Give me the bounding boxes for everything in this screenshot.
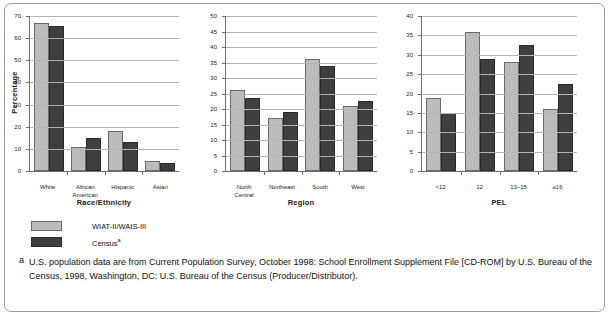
y-tick: 30 — [222, 78, 226, 79]
chart-panel-pel: 0510152025303540 <121213–15≥16 PEL — [399, 8, 599, 213]
y-tick: 20 — [222, 109, 226, 110]
y-tick: 30 — [26, 105, 30, 106]
bar — [230, 90, 245, 171]
gridline — [30, 60, 179, 61]
y-tick-label: 30 — [406, 52, 413, 58]
x-axis-title: Race/Ethnicity — [29, 198, 179, 207]
x-tick — [67, 171, 68, 175]
x-tick-labels: <121213–15≥16 — [421, 184, 577, 192]
gridline — [226, 32, 377, 33]
y-tick: 5 — [418, 152, 422, 153]
bar — [305, 59, 320, 171]
x-tick — [461, 171, 462, 175]
y-tick-label: 20 — [14, 124, 21, 130]
bar — [86, 138, 101, 171]
y-tick: 60 — [26, 38, 30, 39]
charts-strip: Percentage 010203040506070 WhiteAfrican … — [5, 8, 606, 213]
bar-groups — [30, 16, 179, 171]
y-tick-label: 50 — [14, 57, 21, 63]
gridline — [30, 16, 179, 17]
y-tick-label: 35 — [210, 60, 217, 66]
x-tick-label: <12 — [421, 184, 460, 192]
y-tick: 25 — [222, 94, 226, 95]
y-tick: 70 — [26, 16, 30, 17]
y-tick-label: 30 — [210, 75, 217, 81]
footnote-marker: a — [19, 254, 24, 268]
x-tick — [142, 171, 143, 175]
gridline — [30, 105, 179, 106]
y-tick: 10 — [418, 132, 422, 133]
gridline — [422, 55, 577, 56]
bar — [504, 62, 519, 171]
bar — [358, 101, 373, 171]
bar-group — [105, 16, 142, 171]
y-tick: 50 — [222, 16, 226, 17]
y-tick-label: 70 — [14, 13, 21, 19]
y-tick-label: 35 — [406, 32, 413, 38]
x-tick — [500, 171, 501, 175]
gridline — [422, 35, 577, 36]
x-tick-label: Northeast — [263, 184, 301, 199]
bar — [543, 109, 558, 171]
gridline — [30, 127, 179, 128]
y-tick-label: 60 — [14, 35, 21, 41]
gridline — [226, 140, 377, 141]
bar — [268, 118, 283, 171]
bar-group — [67, 16, 104, 171]
x-tick-label: ≥16 — [538, 184, 577, 192]
bar — [160, 163, 175, 171]
gridline — [422, 16, 577, 17]
x-tick-label: North Central — [225, 184, 263, 199]
bar — [426, 98, 441, 171]
plot-area: 0510152025303540 — [421, 16, 577, 172]
y-tick-label: 10 — [406, 129, 413, 135]
x-tick-label: African American — [67, 184, 105, 199]
legend-swatch-wiat — [31, 221, 62, 231]
bar — [480, 59, 495, 171]
y-tick-label: 30 — [14, 102, 21, 108]
bar — [343, 106, 358, 171]
legend-label-census-marker: a — [117, 237, 120, 243]
chart-panel-region: 05101520253035404550 North CentralNorthe… — [203, 8, 399, 213]
y-tick-label: 10 — [210, 137, 217, 143]
legend-item: WIAT-II/WAIS-III — [31, 218, 251, 234]
plot-area-wrapper: 010203040506070 WhiteAfrican AmericanHis… — [29, 16, 179, 172]
gridline — [226, 63, 377, 64]
y-tick: 5 — [222, 156, 226, 157]
y-tick: 35 — [418, 35, 422, 36]
gridline — [422, 113, 577, 114]
x-tick-label: Hispanic — [104, 184, 142, 199]
plot-area-wrapper: 05101520253035404550 North CentralNorthe… — [225, 16, 377, 172]
plot-area: 010203040506070 — [29, 16, 179, 172]
x-tick-label: White — [29, 184, 67, 199]
y-tick-label: 10 — [14, 146, 21, 152]
gridline — [226, 78, 377, 79]
y-tick: 25 — [418, 74, 422, 75]
y-tick: 10 — [222, 140, 226, 141]
gridline — [30, 149, 179, 150]
gridline — [422, 94, 577, 95]
x-tick-labels: North CentralNortheastSouthWest — [225, 184, 377, 199]
bar-group — [142, 16, 179, 171]
plot-area-wrapper: 0510152025303540 <121213–15≥16 — [421, 16, 577, 172]
bar — [145, 161, 160, 171]
x-tick — [264, 171, 265, 175]
chart-legend: WIAT-II/WAIS-III Censusa — [31, 218, 251, 250]
y-tick: 0 — [418, 171, 422, 172]
y-tick-label: 5 — [410, 149, 413, 155]
gridline — [226, 109, 377, 110]
bar-group — [30, 16, 67, 171]
y-tick: 40 — [26, 82, 30, 83]
legend-item: Censusa — [31, 234, 251, 250]
gridline — [422, 152, 577, 153]
y-tick: 0 — [26, 171, 30, 172]
bar — [465, 32, 480, 171]
x-axis-title: Region — [225, 198, 377, 207]
y-tick-label: 40 — [14, 79, 21, 85]
x-tick — [302, 171, 303, 175]
gridline — [226, 125, 377, 126]
gridline — [226, 94, 377, 95]
y-tick-label: 45 — [210, 29, 217, 35]
y-tick-label: 15 — [210, 122, 217, 128]
y-tick: 40 — [418, 16, 422, 17]
